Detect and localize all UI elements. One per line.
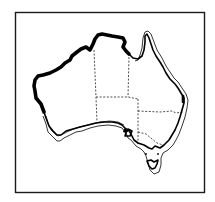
range-band-outer-line (43, 31, 188, 174)
australia-distribution-map (0, 0, 215, 202)
border-nsw-vic (138, 132, 163, 145)
state-borders (94, 50, 183, 145)
border-wa-nt-sa (94, 50, 97, 122)
island-dot (157, 153, 159, 155)
border-qld-nsw (138, 111, 183, 113)
coastline-east-south (44, 34, 184, 149)
border-nt-sa (96, 97, 138, 99)
island-dot (145, 153, 147, 155)
map-frame (16, 13, 205, 193)
coastline-north-west-thick (34, 34, 129, 112)
border-nt-qld (128, 57, 129, 97)
tasmania-outline (147, 160, 158, 169)
